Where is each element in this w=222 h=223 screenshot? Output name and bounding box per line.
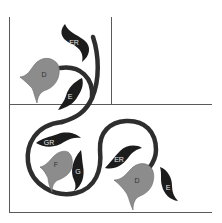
flower-top-shape	[20, 58, 59, 103]
leaf-bottom-left-label: ER	[114, 156, 124, 163]
leaf-bottom-right-label: E	[166, 184, 171, 191]
vine-flower-diagram: ER D E GR F G ER D E	[0, 0, 222, 223]
leaf-top-label: ER	[69, 39, 79, 46]
leaf-middle-upper-shape	[36, 133, 81, 147]
leaf-middle-right-label: G	[75, 168, 80, 175]
leaf-middle-upper-label: GR	[44, 139, 55, 146]
flower-middle-label: F	[54, 161, 58, 168]
flower-bottom-right-shape	[114, 164, 154, 210]
flower-bottom-right-label: D	[134, 177, 139, 184]
flower-top-label: D	[41, 71, 46, 78]
leaf-top-lower-label: E	[68, 93, 73, 100]
